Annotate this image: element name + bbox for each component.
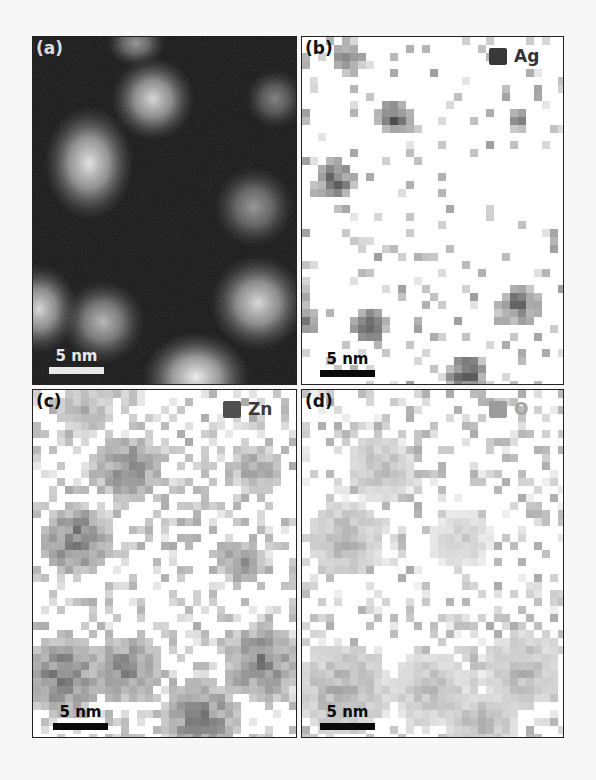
figure-panel-d: (d) O 5 nm bbox=[301, 389, 564, 738]
figure-panel-b: (b) Ag 5 nm bbox=[301, 36, 564, 385]
panel-label: (c) bbox=[36, 391, 62, 411]
edx-map-zn bbox=[33, 390, 297, 738]
element-legend: Ag bbox=[489, 47, 539, 65]
legend-element-label: Ag bbox=[514, 47, 539, 65]
panel-label: (d) bbox=[305, 391, 333, 411]
scale-bar: 5 nm bbox=[320, 704, 375, 730]
scale-bar: 5 nm bbox=[49, 348, 104, 374]
scale-bar-line bbox=[49, 367, 104, 374]
edx-map-ag bbox=[302, 37, 564, 385]
legend-element-label: O bbox=[514, 400, 528, 418]
scale-bar: 5 nm bbox=[53, 704, 108, 730]
haadf-image bbox=[33, 37, 297, 385]
scale-bar-label: 5 nm bbox=[53, 704, 108, 720]
scale-bar-line bbox=[53, 723, 108, 730]
element-legend: Zn bbox=[223, 400, 272, 418]
legend-element-label: Zn bbox=[248, 400, 272, 418]
legend-swatch-icon bbox=[223, 401, 241, 418]
scale-bar-line bbox=[320, 723, 375, 730]
legend-swatch-icon bbox=[489, 401, 507, 418]
panel-label: (b) bbox=[305, 38, 333, 58]
figure-panel-c: (c) Zn 5 nm bbox=[32, 389, 297, 738]
panel-label: (a) bbox=[36, 38, 63, 58]
scale-bar-label: 5 nm bbox=[320, 351, 375, 367]
legend-swatch-icon bbox=[489, 48, 507, 65]
edx-map-o bbox=[302, 390, 564, 738]
scale-bar: 5 nm bbox=[320, 351, 375, 377]
scale-bar-line bbox=[320, 370, 375, 377]
element-legend: O bbox=[489, 400, 528, 418]
scale-bar-label: 5 nm bbox=[320, 704, 375, 720]
scale-bar-label: 5 nm bbox=[49, 348, 104, 364]
figure-panel-a: (a) 5 nm bbox=[32, 36, 297, 385]
